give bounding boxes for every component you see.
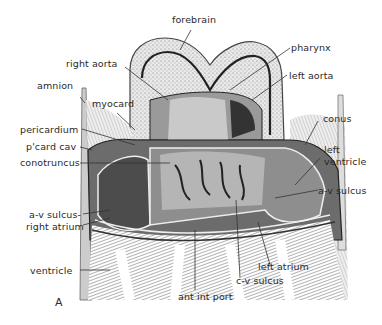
label-right-atrium: right atrium <box>26 221 84 232</box>
label-amnion: amnion <box>37 80 73 91</box>
label-av-sulcus-right: a-v sulcus- <box>29 209 81 220</box>
label-left-aorta: left aorta <box>289 70 334 81</box>
label-pericardium: pericardium <box>20 124 78 135</box>
label-cv-sulcus: c-v sulcus <box>236 275 284 286</box>
label-ant-int-port: ant int port <box>178 291 233 302</box>
label-left-ventricle-line1: left <box>324 144 340 155</box>
label-conotruncus: conotruncus <box>20 157 80 168</box>
label-ventricle: ventricle <box>30 265 72 276</box>
label-pharynx: pharynx <box>291 42 331 53</box>
label-pcard-cav: p'card cav <box>26 141 76 152</box>
label-forebrain: forebrain <box>172 14 216 25</box>
label-right-aorta: right aorta <box>66 58 118 69</box>
anatomical-figure: forebrain right aorta pharynx left aorta… <box>0 0 382 325</box>
label-left-ventricle-line2: ventricle <box>324 156 366 167</box>
label-myocard: myocard <box>92 98 134 109</box>
label-left-atrium: left atrium <box>258 261 309 272</box>
label-conus: conus <box>323 113 352 124</box>
panel-label: A <box>55 296 63 309</box>
label-av-sulcus-left: a-v sulcus <box>318 185 366 196</box>
